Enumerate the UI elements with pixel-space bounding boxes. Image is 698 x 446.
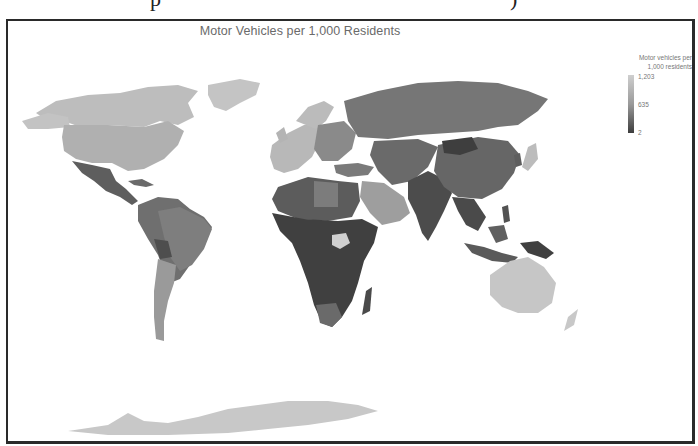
region-philippines bbox=[502, 205, 510, 223]
legend-title-line2: 1,000 residents bbox=[608, 62, 692, 71]
region-greenland bbox=[208, 79, 260, 111]
region-indonesia bbox=[464, 243, 518, 263]
legend-gradient-bar bbox=[628, 75, 634, 133]
color-legend: Motor vehicles per 1,000 residents 1,203… bbox=[608, 53, 692, 71]
map-frame: Motor Vehicles per 1,000 Residents bbox=[6, 19, 695, 444]
region-argentina-chile bbox=[154, 259, 176, 341]
region-antarctica bbox=[68, 401, 378, 435]
world-choropleth-map bbox=[8, 21, 692, 441]
region-eastern-europe bbox=[314, 121, 356, 161]
region-borneo bbox=[488, 225, 508, 243]
region-japan bbox=[522, 143, 538, 171]
legend-mid-label: 635 bbox=[638, 101, 649, 108]
legend-title-line1: Motor vehicles per bbox=[608, 53, 692, 62]
region-caribbean bbox=[128, 179, 154, 187]
cropped-page-text: p ) bbox=[0, 0, 698, 6]
region-middle-east bbox=[360, 181, 410, 225]
region-southeast-asia bbox=[452, 197, 486, 231]
region-new-guinea bbox=[520, 241, 554, 259]
region-libya bbox=[314, 181, 338, 207]
region-russia bbox=[344, 81, 548, 139]
region-turkey bbox=[334, 163, 374, 177]
region-australia bbox=[490, 257, 556, 313]
region-new-zealand bbox=[564, 309, 578, 331]
legend-min-label: 2 bbox=[638, 129, 642, 136]
legend-max-label: 1,203 bbox=[638, 73, 654, 80]
region-madagascar bbox=[362, 287, 372, 315]
